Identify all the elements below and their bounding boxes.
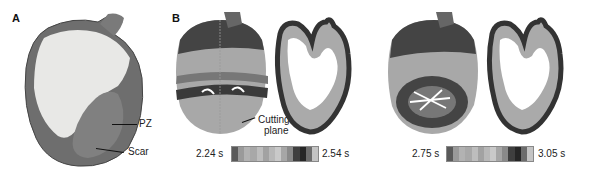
heart-3d-scar-model bbox=[18, 8, 148, 168]
scar-label: Scar bbox=[128, 146, 149, 157]
colorbar-2-max-label: 3.05 s bbox=[538, 148, 565, 159]
activation-map-heart-1 bbox=[172, 10, 272, 135]
pz-label: PZ bbox=[139, 118, 152, 129]
colorbar-1-min-label: 2.24 s bbox=[196, 148, 223, 159]
colorbar-1 bbox=[231, 146, 319, 162]
cross-section-2 bbox=[486, 14, 566, 136]
pz-leader-line bbox=[112, 124, 137, 125]
cutting-plane-label-line-2: plane bbox=[264, 125, 288, 136]
colorbar-1-max-label: 2.54 s bbox=[322, 148, 349, 159]
activation-map-heart-2 bbox=[384, 10, 484, 135]
colorbar-2 bbox=[446, 146, 534, 162]
colorbar-step bbox=[527, 147, 533, 161]
colorbar-2-min-label: 2.75 s bbox=[412, 148, 439, 159]
cross-section-1 bbox=[274, 14, 354, 136]
colorbar-step bbox=[312, 147, 318, 161]
